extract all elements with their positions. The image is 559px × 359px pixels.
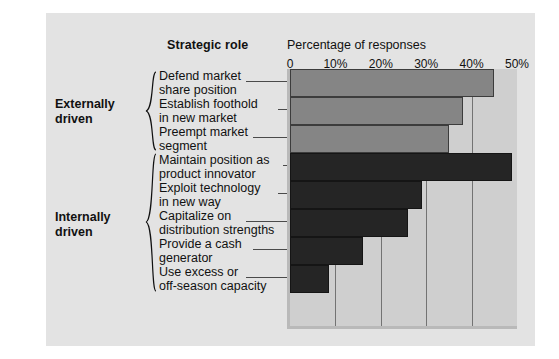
- plot-area: [290, 69, 517, 326]
- leader-line-3: [253, 137, 290, 138]
- category-label-8: Use excess oroff-season capacity: [159, 265, 290, 293]
- category-label-5: Exploit technologyin new way: [159, 181, 290, 209]
- bar-8[interactable]: [290, 265, 329, 293]
- leader-line-8: [246, 277, 290, 278]
- category-label-line1: Maintain position as: [159, 153, 290, 167]
- group-label-internally-driven: Internally driven: [55, 210, 111, 239]
- category-label-line2: generator: [159, 251, 290, 265]
- category-label-line2: distribution strengths: [159, 223, 290, 237]
- bars-container: [290, 69, 517, 293]
- bar-row: [290, 237, 517, 265]
- bar-6[interactable]: [290, 209, 408, 237]
- category-label-1: Defend marketshare position: [159, 69, 290, 97]
- leader-line-2: [278, 109, 290, 110]
- group-label-line2: driven: [55, 112, 115, 127]
- leader-line-6: [246, 221, 290, 222]
- strategic-role-header: Strategic role: [167, 38, 248, 52]
- group-label-externally-driven: Externally driven: [55, 97, 115, 126]
- leader-line-4: [283, 165, 290, 166]
- bar-row: [290, 209, 517, 237]
- bar-row: [290, 181, 517, 209]
- percentage-of-responses-header: Percentage of responses: [287, 38, 426, 52]
- category-label-line1: Exploit technology: [159, 181, 290, 195]
- category-label-line2: product innovator: [159, 167, 290, 181]
- leader-line-7: [253, 249, 290, 250]
- bar-row: [290, 97, 517, 125]
- group-label-line2: driven: [55, 225, 111, 240]
- category-label-line1: Establish foothold: [159, 97, 290, 111]
- bar-row: [290, 69, 517, 97]
- bar-4[interactable]: [290, 153, 512, 181]
- category-label-line2: off-season capacity: [159, 279, 290, 293]
- category-label-line2: in new market: [159, 111, 290, 125]
- category-label-line2: segment: [159, 139, 290, 153]
- category-label-line2: share position: [159, 83, 290, 97]
- leader-line-5: [278, 193, 290, 194]
- bar-row: [290, 153, 517, 181]
- bar-2[interactable]: [290, 97, 463, 125]
- brace-externally-driven: [144, 71, 158, 151]
- chart-figure: Strategic role Percentage of responses 0…: [46, 13, 535, 346]
- category-label-3: Preempt marketsegment: [159, 125, 290, 153]
- category-label-2: Establish footholdin new market: [159, 97, 290, 125]
- bar-3[interactable]: [290, 125, 449, 153]
- category-labels: Defend marketshare positionEstablish foo…: [159, 69, 290, 293]
- group-label-line1: Externally: [55, 97, 115, 112]
- bar-row: [290, 125, 517, 153]
- category-label-7: Provide a cashgenerator: [159, 237, 290, 265]
- category-label-6: Capitalize ondistribution strengths: [159, 209, 290, 237]
- category-label-line2: in new way: [159, 195, 290, 209]
- leader-line-1: [246, 81, 290, 82]
- category-label-4: Maintain position asproduct innovator: [159, 153, 290, 181]
- group-label-line1: Internally: [55, 210, 111, 225]
- bar-7[interactable]: [290, 237, 363, 265]
- bar-row: [290, 265, 517, 293]
- bar-1[interactable]: [290, 69, 494, 97]
- brace-internally-driven: [144, 153, 158, 292]
- bar-5[interactable]: [290, 181, 422, 209]
